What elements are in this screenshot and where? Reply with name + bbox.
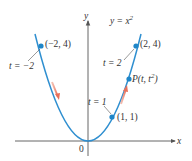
point-1-1: [109, 114, 114, 119]
param-label-t-neg2: t = −2: [9, 61, 34, 71]
direction-arrow-left: [52, 82, 60, 100]
point-neg2-4: [38, 43, 43, 48]
y-axis-label: y: [83, 11, 89, 21]
point-label-2-4: (2, 4): [140, 39, 161, 50]
curve-equation-label: y = x2: [109, 14, 134, 26]
param-label-t-2: t = 2: [103, 58, 122, 68]
point-P: [126, 76, 131, 81]
x-axis-label: x: [176, 136, 182, 146]
point-label-1-1: (1, 1): [117, 112, 138, 123]
param-label-t-1: t = 1: [88, 97, 107, 107]
leader-t-1: [104, 106, 111, 114]
direction-arrow-right: [121, 85, 128, 104]
leader-t-neg2: [28, 49, 40, 61]
parametric-parabola-diagram: y x 0 y = x2 (−2, 4) t = −2 (2, 4) t = 2…: [0, 0, 192, 161]
leader-t-2: [124, 49, 134, 60]
point-label-P: P(t, t2): [131, 72, 158, 85]
origin-label: 0: [79, 144, 84, 154]
point-label-neg2-4: (−2, 4): [45, 39, 71, 50]
point-2-4: [133, 43, 138, 48]
